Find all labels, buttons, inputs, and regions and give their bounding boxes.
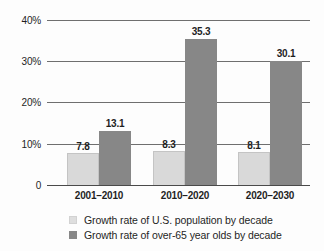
bar-population-2010-2020: 8.3 — [153, 151, 185, 185]
bar-group-2010-2020: 8.3 35.3 2010–2020 — [153, 20, 217, 185]
ytick-label-0: 0 — [36, 180, 41, 191]
bar-population-2020-2030: 8.1 — [238, 152, 270, 185]
category-label-2010-2020: 2010–2020 — [161, 190, 209, 201]
chart-legend: Growth rate of U.S. population by decade… — [0, 212, 324, 242]
legend-swatch-over65-icon — [69, 231, 77, 239]
ytick-label-30: 30% — [22, 56, 41, 67]
bar-value-population-2001-2010: 7.8 — [76, 141, 89, 152]
bar-group-2001-2010: 7.8 13.1 2001–2010 — [67, 20, 131, 185]
bar-value-over65-2001-2010: 13.1 — [106, 118, 125, 129]
legend-label-population: Growth rate of U.S. population by decade — [84, 214, 273, 226]
bar-value-over65-2010-2020: 35.3 — [192, 26, 211, 37]
legend-item-over65: Growth rate of over-65 year olds by deca… — [0, 227, 324, 242]
bar-over65-2020-2030: 30.1 — [270, 61, 302, 185]
bar-value-population-2010-2020: 8.3 — [162, 139, 175, 150]
bar-value-population-2020-2030: 8.1 — [247, 140, 260, 151]
bar-over65-2001-2010: 13.1 — [99, 131, 131, 185]
chart-figure: 40% 30% 20% 10% 0 7.8 13.1 2001–2010 — [0, 0, 324, 251]
legend-label-over65: Growth rate of over-65 year olds by deca… — [84, 229, 282, 241]
bar-population-2001-2010: 7.8 — [67, 153, 99, 185]
bar-group-2020-2030: 8.1 30.1 2020–2030 — [238, 20, 302, 185]
category-label-2001-2010: 2001–2010 — [75, 190, 123, 201]
ytick-label-10: 10% — [22, 139, 41, 150]
axis-baseline: 0 — [47, 185, 310, 186]
category-label-2020-2030: 2020–2030 — [246, 190, 294, 201]
bar-value-over65-2020-2030: 30.1 — [277, 48, 296, 59]
ytick-label-20: 20% — [22, 97, 41, 108]
ytick-label-40: 40% — [22, 15, 41, 26]
legend-swatch-population-icon — [69, 216, 77, 224]
plot-area: 40% 30% 20% 10% 0 7.8 13.1 2001–2010 — [47, 20, 310, 185]
legend-item-population: Growth rate of U.S. population by decade — [0, 212, 324, 227]
bar-over65-2010-2020: 35.3 — [185, 39, 217, 185]
